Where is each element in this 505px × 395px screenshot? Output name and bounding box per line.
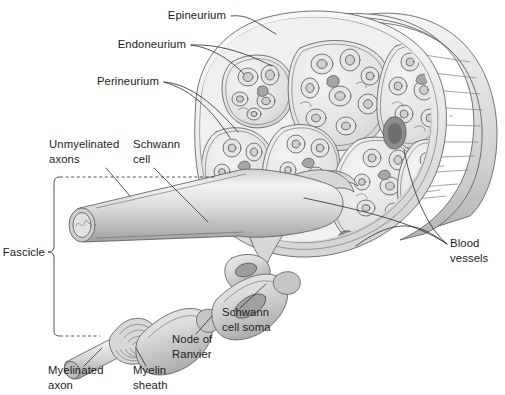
label-blood-vessels: Blood vessels: [450, 237, 489, 264]
peripheral-nerve-figure: Epineurium Endoneurium Perineurium Unmye…: [0, 0, 505, 395]
fascicle-cross-section: [222, 55, 293, 128]
blood-vessel: [383, 117, 406, 149]
unmyelinated-axon-bundle: [69, 169, 343, 242]
label-myelin-sheath: Myelin sheath: [133, 364, 170, 391]
nerve-diagram-canvas: Epineurium Endoneurium Perineurium Unmye…: [0, 0, 505, 395]
label-schwann-cell: Schwann cell: [133, 138, 183, 165]
label-epineurium: Epineurium: [168, 9, 226, 21]
label-endoneurium: Endoneurium: [118, 38, 186, 50]
label-unmyelinated-axons: Unmyelinated axons: [49, 138, 123, 165]
label-fascicle: Fascicle: [3, 246, 45, 258]
label-perineurium: Perineurium: [97, 75, 159, 87]
axon-trunk-connector: [273, 272, 300, 295]
